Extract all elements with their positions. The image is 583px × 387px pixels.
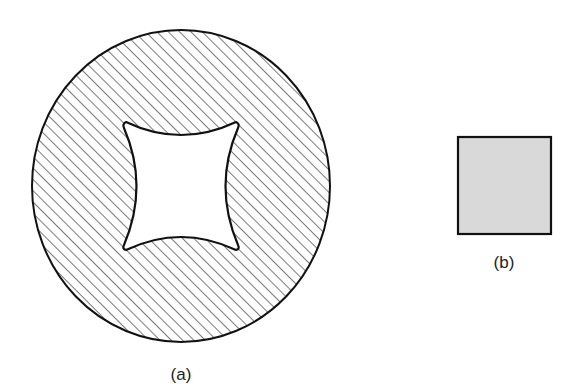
astroid-hollow: [123, 122, 238, 250]
panel-b-label: (b): [494, 253, 515, 272]
panel-a-label: (a): [171, 365, 192, 384]
panel-a: (a): [32, 30, 330, 384]
gray-square: [458, 137, 551, 234]
figure-canvas: (a) (b): [0, 0, 583, 387]
panel-b: (b): [458, 137, 551, 272]
